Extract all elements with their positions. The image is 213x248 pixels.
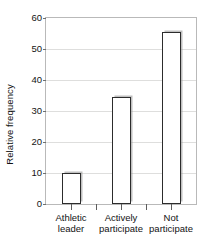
bar (162, 32, 182, 204)
y-tick-label: 30 (31, 106, 42, 116)
bar (62, 173, 82, 204)
plot-area: 6050403020100AthleticleaderActivelyparti… (45, 17, 197, 205)
bar-chart-figure: Relative frequency 6050403020100Athletic… (0, 0, 213, 248)
x-tick-mark (96, 204, 97, 210)
y-tick-mark (43, 18, 46, 19)
y-tick-label: 50 (31, 44, 42, 54)
y-tick-label: 10 (31, 168, 42, 178)
x-axis-category-label: Athleticleader (55, 212, 86, 234)
y-tick-label: 20 (31, 137, 42, 147)
x-tick-mark (146, 204, 147, 210)
x-category-line-2: participate (99, 223, 143, 234)
y-tick-label: 0 (37, 199, 42, 209)
y-tick-mark (43, 142, 46, 143)
y-tick-mark (43, 173, 46, 174)
y-tick-mark (43, 49, 46, 50)
y-tick-mark (43, 80, 46, 81)
x-category-line-2: leader (55, 223, 86, 234)
x-tick-mark (171, 204, 172, 210)
x-axis-category-label: Activelyparticipate (99, 212, 143, 234)
y-axis-title: Relative frequency (0, 0, 18, 248)
y-tick-label: 60 (31, 13, 42, 23)
x-category-line-1: Not (164, 212, 179, 223)
bar (112, 97, 132, 204)
cut-off-title (28, 0, 210, 2)
x-tick-mark (71, 204, 72, 210)
x-category-line-1: Athletic (55, 212, 86, 223)
x-axis-category-label: Notparticipate (149, 212, 193, 234)
y-tick-mark (43, 204, 46, 205)
x-category-line-1: Actively (105, 212, 138, 223)
y-axis-title-text: Relative frequency (4, 84, 15, 164)
y-tick-label: 40 (31, 75, 42, 85)
x-category-line-2: participate (149, 223, 193, 234)
y-tick-mark (43, 111, 46, 112)
x-tick-mark (121, 204, 122, 210)
